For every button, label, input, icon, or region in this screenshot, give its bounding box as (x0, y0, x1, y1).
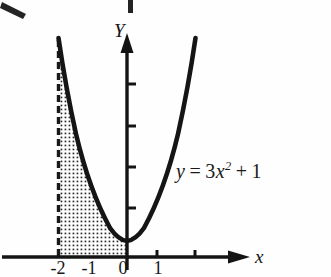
page-background (0, 0, 331, 277)
graph-figure (0, 0, 331, 277)
equation-equals: = (185, 160, 205, 182)
equation-coefficient: 3 (205, 160, 216, 182)
x-tick-label-zero: 0 (109, 258, 137, 277)
equation-annotation: y=3x2+1 (176, 160, 262, 183)
equation-exponent: 2 (225, 159, 232, 173)
x-axis-label: x (255, 246, 263, 268)
equation-constant: 1 (252, 160, 263, 182)
equation-variable: x (216, 160, 225, 182)
x-tick-label-minus-2: -2 (44, 258, 72, 277)
equation-lhs: y (176, 160, 185, 182)
x-tick-label-minus-1: -1 (75, 258, 103, 277)
x-tick-label-one: 1 (144, 258, 172, 277)
y-axis-label: Y (114, 20, 125, 42)
equation-plus: + (232, 160, 252, 182)
bleed-stroke-vertical (128, 0, 133, 13)
